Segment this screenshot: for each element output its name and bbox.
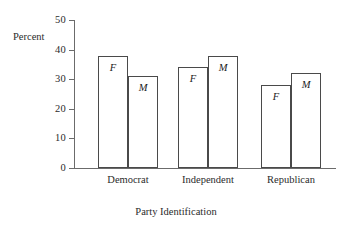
bar: M xyxy=(208,56,238,168)
y-axis-tick-label-wrap: 50 xyxy=(0,15,66,26)
y-axis-tick xyxy=(69,168,74,169)
y-axis-title: Percent xyxy=(13,31,45,42)
bar-label: F xyxy=(262,91,290,102)
x-axis-category-label: Republican xyxy=(241,174,341,186)
y-axis-tick-label-wrap: 10 xyxy=(0,133,66,144)
y-axis-tick-label: 20 xyxy=(20,104,66,115)
bar-label: M xyxy=(209,62,237,73)
bar-chart: Percent 01020304050 FMFMFM DemocratIndep… xyxy=(0,0,352,238)
bar-label: M xyxy=(129,82,157,93)
y-axis-tick-label: 50 xyxy=(20,15,66,26)
bar-label: F xyxy=(99,62,127,73)
bar: M xyxy=(291,73,321,168)
y-axis-tick-label: 0 xyxy=(20,163,66,174)
bar: M xyxy=(128,76,158,168)
y-axis-tick-label-wrap: 30 xyxy=(0,74,66,85)
x-axis-title: Party Identification xyxy=(0,206,352,217)
y-axis-tick-label: 10 xyxy=(20,133,66,144)
x-axis-line xyxy=(74,168,336,169)
bar: F xyxy=(98,56,128,168)
plot-area: FMFMFM xyxy=(74,20,336,168)
bar: F xyxy=(261,85,291,168)
y-axis-tick-label-wrap: 20 xyxy=(0,104,66,115)
bar-label: M xyxy=(292,79,320,90)
y-axis-tick-label: 30 xyxy=(20,74,66,85)
bar: F xyxy=(178,67,208,168)
y-axis-tick-label: 40 xyxy=(20,45,66,56)
y-axis-tick-label-wrap: 0 xyxy=(0,163,66,174)
y-axis-tick-label-wrap: 40 xyxy=(0,45,66,56)
bar-label: F xyxy=(179,73,207,84)
